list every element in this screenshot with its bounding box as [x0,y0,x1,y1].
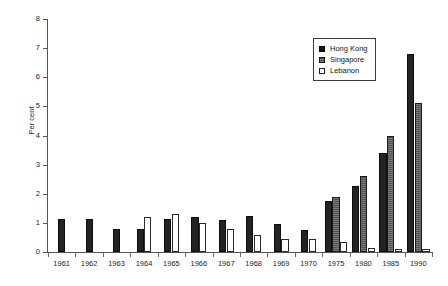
x-axis-tick-label: 1985 [377,259,404,268]
bar-hong-kong-1970 [301,230,308,252]
x-axis-tick [295,253,296,257]
x-axis-tick [432,253,433,257]
x-axis-tick [322,253,323,257]
legend-swatch-singapore [319,57,325,63]
bar-singapore-1975 [332,197,339,252]
bar-hong-kong-1980 [352,186,359,252]
x-axis-tick [103,253,104,257]
x-axis-tick [75,253,76,257]
bar-lebanon-1969 [281,239,288,252]
bar-singapore-1980 [360,176,367,252]
bar-hong-kong-1990 [407,54,414,252]
x-axis-tick [158,253,159,257]
x-axis-tick-label: 1975 [322,259,349,268]
bar-lebanon-1980 [368,248,375,252]
legend-item-hong-kong: Hong Kong [319,43,368,54]
y-axis-tick-label: 8 [24,15,40,23]
bar-hong-kong-1975 [325,201,332,252]
bar-hong-kong-1966 [191,217,198,252]
bar-lebanon-1967 [227,229,234,252]
bar-hong-kong-1961 [58,219,65,252]
x-axis-tick-label: 1968 [240,259,267,268]
bar-hong-kong-1968 [246,216,253,252]
x-axis-tick [130,253,131,257]
x-axis-tick [213,253,214,257]
y-axis-tick-label: 0 [24,248,40,256]
bar-hong-kong-1965 [164,219,171,252]
y-axis-tick-label: 3 [24,161,40,169]
x-axis-tick-label: 1963 [103,259,130,268]
x-axis-tick [377,253,378,257]
bar-lebanon-1964 [144,217,151,252]
x-axis-tick-label: 1966 [185,259,212,268]
x-axis-tick [240,253,241,257]
x-axis-tick-label: 1964 [130,259,157,268]
legend-item-singapore: Singapore [319,54,368,65]
x-axis-tick-label: 1967 [213,259,240,268]
y-axis-tick-label: 5 [24,102,40,110]
x-axis-tick-label: 1980 [350,259,377,268]
chart-legend: Hong Kong Singapore Lebanon [313,38,376,81]
bar-lebanon-1975 [340,242,347,252]
bar-lebanon-1990 [422,249,429,252]
x-axis-tick-label: 1970 [295,259,322,268]
bar-lebanon-1965 [172,214,179,252]
y-axis-title: Per cent [27,81,36,161]
x-axis-tick [267,253,268,257]
x-axis-tick-label: 1969 [267,259,294,268]
x-axis-tick [48,253,49,257]
bar-chart-figure: Per cent 012345678 196119621963196419651… [0,0,448,286]
legend-label-lebanon: Lebanon [330,66,359,75]
bar-lebanon-1968 [254,235,261,252]
bar-lebanon-1966 [199,223,206,252]
x-axis-tick-label: 1965 [158,259,185,268]
bar-hong-kong-1985 [379,153,386,252]
bar-hong-kong-1967 [219,220,226,252]
x-axis-tick-label: 1961 [48,259,75,268]
y-axis-tick-label: 2 [24,190,40,198]
bar-lebanon-1970 [309,239,316,252]
y-axis-tick-label: 1 [24,219,40,227]
bar-hong-kong-1964 [137,229,144,252]
x-axis-tick-label: 1990 [405,259,432,268]
legend-swatch-hong-kong [319,46,325,52]
y-axis-tick-label: 6 [24,73,40,81]
x-axis-tick [405,253,406,257]
y-axis-tick-label: 7 [24,44,40,52]
legend-swatch-lebanon [319,68,325,74]
x-axis-tick [185,253,186,257]
bar-lebanon-1985 [395,249,402,252]
bar-hong-kong-1963 [113,229,120,252]
x-axis-tick-label: 1962 [75,259,102,268]
legend-label-singapore: Singapore [330,55,364,64]
bar-singapore-1985 [387,136,394,253]
y-axis-tick-label: 4 [24,132,40,140]
bar-hong-kong-1962 [86,219,93,252]
x-axis-tick [350,253,351,257]
legend-label-hong-kong: Hong Kong [330,44,368,53]
legend-item-lebanon: Lebanon [319,65,368,76]
bar-singapore-1990 [415,103,422,252]
bar-hong-kong-1969 [274,224,281,252]
